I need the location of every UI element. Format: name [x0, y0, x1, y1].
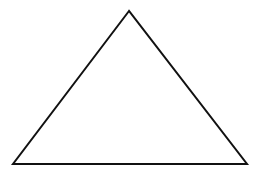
diagram-svg	[0, 0, 262, 181]
diagram-canvas	[0, 0, 262, 181]
triangle-shape	[13, 11, 247, 164]
